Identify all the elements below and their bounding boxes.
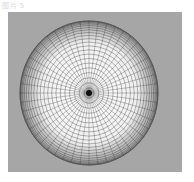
sphere-pole: [86, 90, 92, 96]
wireframe-sphere: [0, 0, 194, 182]
